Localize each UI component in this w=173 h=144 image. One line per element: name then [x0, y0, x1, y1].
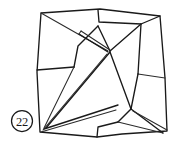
- figure-facets: [37, 9, 167, 137]
- step-badge-label: 22: [16, 115, 28, 129]
- origami-figure-container: 22: [0, 0, 173, 144]
- paper-silhouette-fill: [37, 9, 167, 137]
- origami-crease-pattern-diagram: 22: [0, 0, 173, 144]
